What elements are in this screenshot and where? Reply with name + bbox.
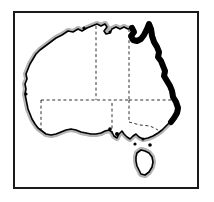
australia-map-svg [0, 0, 214, 202]
island-dot-kangaroo [115, 132, 119, 136]
island-dot-eyre [108, 127, 112, 131]
island-dot-groote [109, 31, 112, 34]
island-dot-cape-leeuwin [24, 92, 27, 95]
island-dot-flinders [148, 143, 152, 147]
map-figure [0, 0, 214, 202]
island-dot-king [133, 142, 136, 145]
island-dot-melville [82, 26, 85, 29]
island-dot-wilsons [142, 138, 145, 141]
